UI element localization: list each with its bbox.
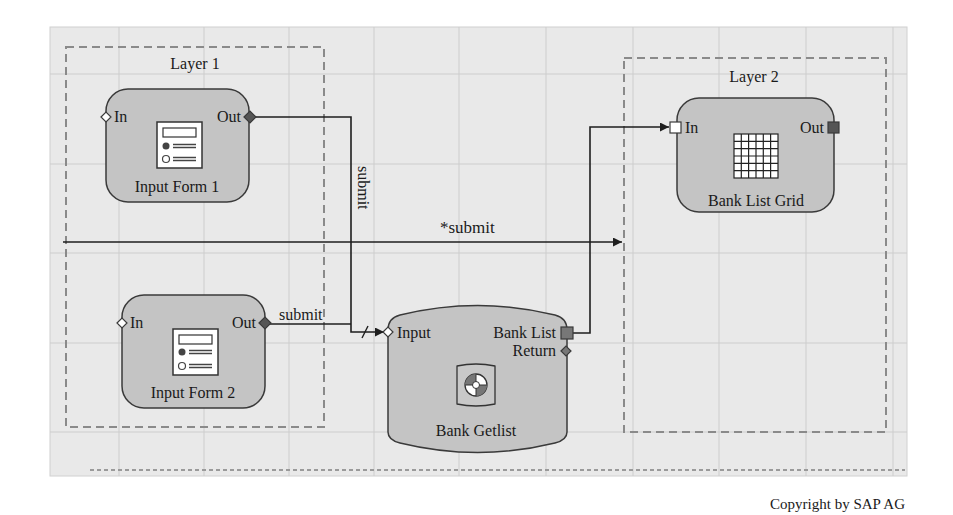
- node-title: Input Form 1: [135, 178, 219, 196]
- layer-1-label: Layer 1: [170, 55, 219, 73]
- grid-table-icon: [734, 134, 778, 178]
- diagram-canvas: Layer 1 Layer 2 submit submit *submit In…: [0, 0, 953, 515]
- edge-label-star-submit: *submit: [440, 218, 495, 237]
- node-title: Input Form 2: [151, 384, 235, 402]
- lifebuoy-icon: [457, 364, 495, 406]
- port-in-label: In: [130, 314, 143, 331]
- node-title: Bank Getlist: [436, 422, 517, 439]
- copyright-text: Copyright by SAP AG: [770, 496, 905, 513]
- edge-label-submit-form2: submit: [279, 306, 323, 323]
- port-input-label: Input: [397, 324, 431, 342]
- edge-label-submit-vertical: submit: [355, 166, 372, 210]
- node-bank-getlist[interactable]: Input Bank List Return Bank Getlist: [383, 306, 573, 453]
- port-bank-list-square-icon[interactable]: [561, 327, 573, 339]
- form-icon: [173, 329, 218, 375]
- layer-2-label: Layer 2: [729, 68, 778, 86]
- port-out-label: Out: [800, 119, 825, 136]
- form-icon: [157, 122, 202, 168]
- node-title: Bank List Grid: [708, 192, 804, 209]
- port-out-label: Out: [217, 108, 242, 125]
- port-in-label: In: [114, 108, 127, 125]
- port-in-label: In: [685, 119, 698, 136]
- port-out-square-icon[interactable]: [828, 122, 839, 133]
- node-input-form-1[interactable]: In Out Input Form 1: [101, 89, 256, 202]
- port-out-label: Out: [232, 314, 257, 331]
- port-in-square-icon[interactable]: [670, 122, 681, 133]
- node-bank-list-grid[interactable]: In Out Bank List Grid: [670, 98, 839, 212]
- port-return-label: Return: [512, 342, 556, 359]
- node-input-form-2[interactable]: In Out Input Form 2: [117, 295, 271, 408]
- port-bank-list-label: Bank List: [493, 324, 556, 341]
